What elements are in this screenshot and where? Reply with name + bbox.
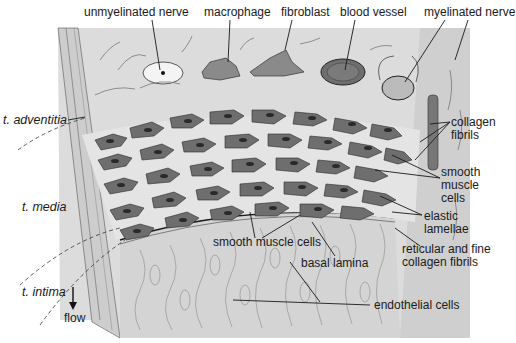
- label-tunica-adventitia: t. adventitia: [3, 114, 67, 127]
- label-collagen-fibrils: collagen fibrils: [451, 116, 496, 142]
- diagram-illustration: [0, 0, 516, 343]
- label-smooth-muscle-cells-bottom: smooth muscle cells: [213, 236, 321, 249]
- label-basal-lamina: basal lamina: [301, 257, 368, 270]
- artery-wall-diagram: unmyelinated nerve macrophage fibroblast…: [0, 0, 516, 343]
- label-tunica-media: t. media: [22, 201, 66, 214]
- label-elastic-lamellae: elastic lamellae: [424, 210, 469, 236]
- label-smooth-muscle-cells-right: smooth muscle cells: [441, 166, 480, 205]
- label-reticular-collagen-fibrils: reticular and fine collagen fibrils: [402, 243, 491, 269]
- label-blood-vessel: blood vessel: [340, 6, 407, 19]
- label-macrophage: macrophage: [204, 6, 271, 19]
- label-fibroblast: fibroblast: [281, 6, 330, 19]
- collagen-fibril-bundle: [428, 95, 438, 170]
- label-unmyelinated-nerve: unmyelinated nerve: [84, 6, 189, 19]
- label-myelinated-nerve: myelinated nerve: [424, 6, 515, 19]
- label-flow: flow: [64, 312, 85, 325]
- label-endothelial-cells: endothelial cells: [374, 299, 459, 312]
- intima-region: [120, 212, 400, 338]
- myelinated-nerve-shape: [382, 76, 414, 100]
- label-tunica-intima: t. intima: [22, 286, 66, 299]
